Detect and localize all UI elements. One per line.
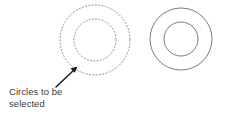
annotation-label: Circles to be selected bbox=[9, 86, 114, 109]
solid-annulus[interactable] bbox=[150, 8, 212, 70]
solid-inner-circle[interactable] bbox=[164, 22, 198, 56]
figure-canvas: Circles to be selected bbox=[0, 0, 225, 120]
dashed-annulus[interactable] bbox=[60, 5, 130, 75]
leader-arrow-shaft bbox=[56, 70, 75, 88]
dashed-outer-circle[interactable] bbox=[60, 5, 130, 75]
leader-arrow-icon bbox=[56, 67, 78, 88]
solid-outer-circle[interactable] bbox=[150, 8, 212, 70]
dashed-inner-circle[interactable] bbox=[74, 19, 116, 61]
